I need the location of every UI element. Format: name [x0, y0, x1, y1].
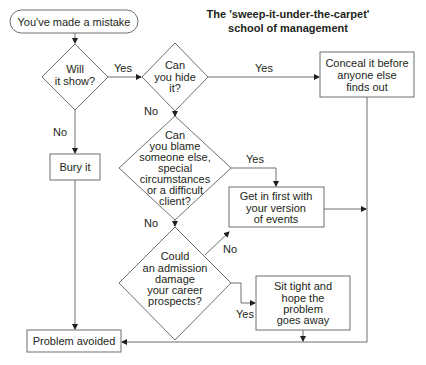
svg-text:Problem avoided: Problem avoided	[33, 335, 116, 347]
node-conceal: Conceal it before anyone else finds out	[320, 52, 414, 97]
svg-text:it show?: it show?	[55, 75, 95, 87]
node-problem-avoided: Problem avoided	[27, 330, 121, 352]
svg-text:Bury it: Bury it	[59, 161, 90, 173]
svg-text:prospects?: prospects?	[148, 295, 202, 307]
node-will-it-show: Will it show?	[42, 44, 108, 110]
label-admission-no: No	[223, 243, 237, 255]
node-sit-tight: Sit tight and hope the problem goes away	[256, 276, 350, 330]
svg-text:client?: client?	[159, 195, 191, 207]
svg-text:of events: of events	[254, 213, 299, 225]
label-blame-no: No	[144, 217, 158, 229]
label-admission-yes: Yes	[236, 308, 254, 320]
svg-text:anyone else: anyone else	[337, 69, 396, 81]
label-show-no: No	[53, 126, 67, 138]
svg-text:Can: Can	[165, 59, 185, 71]
svg-text:Will: Will	[66, 63, 84, 75]
flowchart: The 'sweep-it-under-the-carpet' school o…	[0, 0, 426, 365]
svg-text:it?: it?	[169, 82, 181, 94]
svg-text:Sit tight and: Sit tight and	[274, 280, 332, 292]
title-line-2: school of management	[228, 22, 348, 34]
edge-blame-yes	[231, 168, 276, 186]
svg-text:Could: Could	[161, 250, 190, 262]
node-start: You've made a mistake	[10, 10, 138, 33]
label-show-yes: Yes	[114, 62, 132, 74]
edge-admission-yes	[231, 283, 255, 303]
chart-title: The 'sweep-it-under-the-carpet' school o…	[207, 8, 370, 34]
svg-text:finds out: finds out	[346, 81, 388, 93]
svg-text:Conceal it before: Conceal it before	[325, 57, 408, 69]
label-hide-no: No	[144, 105, 158, 117]
label-blame-yes: Yes	[246, 153, 264, 165]
node-could-admission: Could an admission damage your career pr…	[119, 227, 231, 340]
svg-text:Get in first with: Get in first with	[240, 190, 313, 202]
label-hide-yes: Yes	[255, 62, 273, 74]
start-label: You've made a mistake	[18, 16, 131, 28]
svg-text:goes away: goes away	[277, 314, 330, 326]
title-line-1: The 'sweep-it-under-the-carpet'	[207, 8, 370, 20]
node-can-you-hide: Can you hide it?	[142, 43, 208, 111]
node-can-you-blame: Can you blame someone else, special circ…	[119, 116, 231, 220]
node-get-in-first: Get in first with your version of events	[229, 187, 324, 227]
node-bury: Bury it	[50, 154, 100, 180]
